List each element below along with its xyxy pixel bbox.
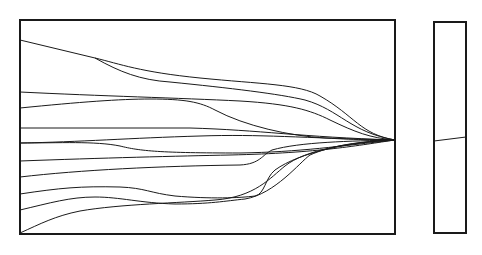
main-panel-border — [20, 20, 395, 234]
side-panel-border — [434, 22, 466, 233]
side-panel-divider-line — [434, 137, 466, 141]
converging-curves — [20, 40, 395, 233]
flow-diagram — [0, 0, 482, 255]
flow-curve — [20, 140, 395, 210]
diagram-svg — [0, 0, 482, 255]
side-panel — [434, 22, 466, 233]
flow-curve — [20, 140, 395, 233]
flow-curve — [20, 99, 395, 140]
flow-curve — [20, 40, 395, 140]
main-panel — [20, 20, 395, 234]
flow-curve — [20, 140, 395, 198]
